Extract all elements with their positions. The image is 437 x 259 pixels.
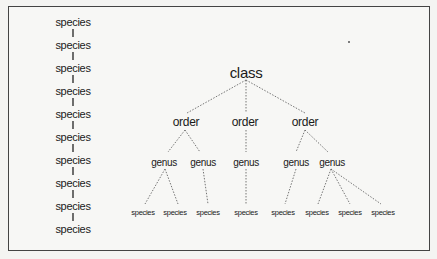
chain-species-2: species: [55, 39, 90, 51]
chain-species-1: species: [55, 16, 90, 28]
tree-node-order-3: order: [292, 115, 319, 129]
chain-species-7: species: [55, 154, 90, 166]
tree-node-class: class: [230, 64, 263, 81]
tree-node-species-2: species: [163, 208, 186, 217]
chain-species-4: species: [55, 85, 90, 97]
tree-node-species-6: species: [305, 208, 328, 217]
tree-node-species-8: species: [371, 208, 394, 217]
chain-species-5: species: [55, 108, 90, 120]
tree-node-species-7: species: [338, 208, 361, 217]
tree-node-order-2: order: [232, 115, 259, 129]
tree-node-species-5: species: [271, 208, 294, 217]
stray-dot: [348, 41, 350, 43]
tree-node-genus-5: genus: [319, 157, 345, 168]
chain-species-10: species: [55, 223, 90, 235]
tree-node-species-4: species: [234, 208, 257, 217]
tree-connectors: [145, 80, 381, 204]
chain-species-3: species: [55, 62, 90, 74]
chain-species-9: species: [55, 200, 90, 212]
tree-node-genus-3: genus: [233, 157, 259, 168]
tree-node-genus-2: genus: [190, 157, 216, 168]
tree-node-species-1: species: [131, 208, 154, 217]
tree-node-species-3: species: [196, 208, 219, 217]
tree-node-genus-4: genus: [283, 157, 309, 168]
tree-node-order-1: order: [173, 115, 200, 129]
chain-species-6: species: [55, 131, 90, 143]
tree-node-genus-1: genus: [151, 157, 177, 168]
chain-species-8: species: [55, 177, 90, 189]
